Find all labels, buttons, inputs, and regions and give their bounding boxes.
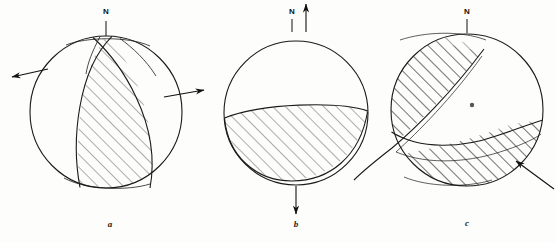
panel-a-north-label: N	[99, 7, 113, 16]
panel-c-center-dot	[470, 103, 474, 107]
panel-a-right-slip-arrow	[164, 90, 204, 97]
panel-b-north-label: N	[285, 7, 299, 16]
beachball-figure	[0, 0, 556, 243]
panel-b-shaded-quadrant	[225, 105, 368, 180]
panel-c-north-label: N	[460, 7, 474, 16]
panel-a-caption: a	[100, 219, 120, 229]
panel-a	[12, 21, 204, 190]
panel-c-oblique-slip-arrow	[516, 161, 554, 189]
panel-a-left-slip-arrow	[12, 69, 48, 77]
panel-b-caption: b	[286, 219, 306, 229]
panel-c-caption: c	[457, 218, 477, 228]
panel-b	[224, 4, 368, 214]
panel-a-shaded-quadrant	[78, 36, 152, 190]
panel-c	[334, 19, 554, 189]
